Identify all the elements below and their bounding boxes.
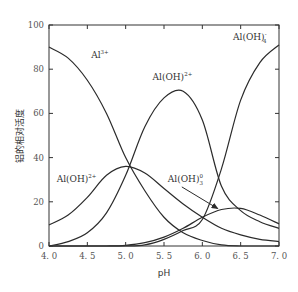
- species-label: Al(OH)03: [167, 173, 204, 186]
- y-tick-label: 40: [33, 153, 44, 163]
- y-tick-label: 100: [28, 20, 44, 30]
- x-tick-label: 4. 5: [79, 251, 95, 261]
- species-label: Al(OH)-4: [232, 31, 267, 44]
- plot-frame: [49, 25, 279, 246]
- series-line-2: [49, 90, 279, 246]
- species-label: Al3+: [90, 49, 109, 60]
- x-axis-title: pH: [158, 268, 170, 278]
- y-axis-title: 铝的相对活度: [14, 109, 25, 163]
- y-tick-label: 60: [33, 108, 44, 118]
- x-tick-label: 4. 0: [41, 251, 57, 261]
- x-tick-label: 7. 0: [271, 251, 287, 261]
- x-axis: 4. 04. 55. 05. 56. 06. 57. 0: [41, 25, 287, 261]
- x-tick-label: 5. 5: [156, 251, 172, 261]
- x-tick-label: 6. 5: [233, 251, 249, 261]
- y-tick-label: 0: [39, 241, 44, 251]
- species-label: Al(OH)2+: [56, 173, 97, 184]
- chart: 4. 04. 55. 05. 56. 06. 57. 0 02040608010…: [0, 0, 298, 292]
- x-tick-label: 6. 0: [194, 251, 210, 261]
- y-tick-label: 80: [33, 64, 44, 74]
- species-label: Al(OH)2+: [152, 71, 193, 82]
- y-tick-label: 20: [33, 197, 44, 207]
- x-tick-label: 5. 0: [118, 251, 134, 261]
